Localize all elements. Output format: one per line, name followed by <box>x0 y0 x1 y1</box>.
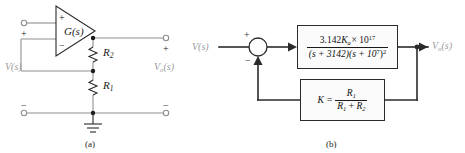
numerator-exponent: 17 <box>369 34 375 41</box>
panel-b-output-label: Vo(s) <box>432 41 452 53</box>
feedback-denominator-second-subscript: 2 <box>362 104 365 111</box>
summing-junction-minus-sign: − <box>245 56 251 66</box>
feedback-path-block: K = R1 R1 + R2 <box>300 79 385 121</box>
panel-a-output-terminal-minus: − <box>163 101 169 111</box>
circuit-terminals <box>21 20 168 115</box>
feedback-equals-sign: = <box>327 95 332 105</box>
panel-a-output-label: Vo(s) <box>154 62 174 74</box>
op-amp-gain-label: G(s) <box>64 26 84 37</box>
ground-icon <box>84 113 102 132</box>
denominator-exponent-2: 2 <box>383 48 386 55</box>
op-amp-plus-input-sign: + <box>59 13 65 23</box>
panel-a-input-terminal-minus: − <box>21 101 27 111</box>
summing-junction-circle <box>249 38 267 56</box>
numerator-coefficient: 3.142 <box>320 35 341 45</box>
panel-a-caption: (a) <box>85 139 95 149</box>
op-amp-minus-input-sign: − <box>59 41 65 51</box>
resistor-r2-subscript: 2 <box>110 51 114 60</box>
resistor-r1-label: R1 <box>103 80 113 93</box>
panel-a-output-tail: (s) <box>164 61 175 72</box>
panel-a-input-terminal-plus: + <box>21 29 27 39</box>
resistor-r2-letter: R <box>103 46 110 58</box>
panel-b-caption: (b) <box>326 139 337 149</box>
resistor-r1-letter: R <box>103 79 110 91</box>
feedback-numerator-subscript: 1 <box>353 92 356 99</box>
resistor-r2-label: R2 <box>103 47 113 60</box>
resistor-r1-symbol <box>89 80 97 95</box>
feedback-gain-symbol: K <box>318 95 324 105</box>
takeoff-node <box>415 45 420 50</box>
numerator-times-ten: × 10 <box>352 35 369 45</box>
panel-b-input-label: V(s) <box>192 42 209 52</box>
forward-transfer-function: 3.142Ka × 1017 (s + 3142)(s + 107)2 <box>307 34 388 60</box>
numerator-gain-subscript: a <box>347 39 350 46</box>
panel-a-circuit-lines <box>0 0 465 153</box>
feedback-denominator-plus: + <box>346 101 356 111</box>
panel-a-output-terminal-plus: + <box>163 44 169 54</box>
panel-b-output-tail: (s) <box>442 40 453 51</box>
resistor-r1-subscript: 1 <box>110 84 114 93</box>
feedback-numerator: R1 <box>335 88 367 99</box>
panel-a-input-label: V(s) <box>5 62 22 72</box>
forward-path-block: 3.142Ka × 1017 (s + 3142)(s + 107)2 <box>297 25 398 69</box>
feedback-fraction: R1 R1 + R2 <box>335 88 367 112</box>
resistor-r2-symbol <box>89 47 97 62</box>
forward-denominator: (s + 3142)(s + 107)2 <box>307 47 388 60</box>
feedback-gain-expression: K = R1 R1 + R2 <box>318 88 368 112</box>
feedback-denominator: R1 + R2 <box>335 100 367 112</box>
figure-container: G(s) + − R2 R1 V(s) Vo(s) + − + − V(s) V… <box>0 0 465 153</box>
forward-numerator: 3.142Ka × 1017 <box>307 34 388 47</box>
denominator-part-1: (s + 3142)(s + 10 <box>309 49 377 59</box>
summing-junction-plus-sign: + <box>244 30 250 40</box>
